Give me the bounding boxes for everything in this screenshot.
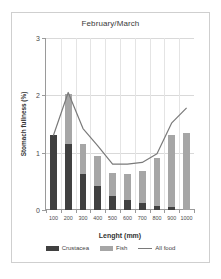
x-tick-mark <box>90 210 91 213</box>
x-tick-label: 800 <box>153 215 162 221</box>
x-tick-mark <box>105 210 106 213</box>
legend-item[interactable]: All food <box>138 245 175 251</box>
x-tick-label: 500 <box>108 215 117 221</box>
x-tick-label: 200 <box>64 215 73 221</box>
y-tick-label: 1 <box>36 149 40 156</box>
x-tick-mark <box>61 210 62 213</box>
y-axis-label: Stomach fullness (%) <box>20 92 27 157</box>
x-tick-mark <box>76 210 77 213</box>
legend-label: Fish <box>116 245 127 251</box>
x-tick-mark <box>46 210 47 213</box>
legend-swatch-fish <box>100 246 113 251</box>
x-tick-mark <box>164 210 165 213</box>
legend-item[interactable]: Crustacea <box>46 245 89 251</box>
line-series-layer <box>46 38 194 210</box>
x-tick-mark <box>120 210 121 213</box>
x-tick-mark <box>179 210 180 213</box>
y-axis-label-wrapper: Stomach fullness (%) <box>21 13 35 235</box>
x-tick-label: 400 <box>93 215 102 221</box>
y-tick-label: 3 <box>36 35 40 42</box>
x-tick-label: 600 <box>123 215 132 221</box>
legend-swatch-crustacea <box>46 246 59 251</box>
y-tick-label: 0 <box>36 207 40 214</box>
chart-title: February/March <box>12 19 209 28</box>
plot-area: 0123 1002003004005006007008009001000 <box>46 38 194 210</box>
legend-label: All food <box>155 245 175 251</box>
line-series-all-food <box>53 92 186 164</box>
x-tick-mark <box>150 210 151 213</box>
y-tick-label: 2 <box>36 92 40 99</box>
legend-label: Crustacea <box>62 245 89 251</box>
legend-swatch-all-food <box>138 248 152 249</box>
x-tick-label: 1000 <box>181 215 193 221</box>
x-tick-label: 900 <box>167 215 176 221</box>
x-tick-mark <box>194 210 195 213</box>
x-tick-mark <box>135 210 136 213</box>
x-tick-label: 700 <box>138 215 147 221</box>
chart-figure: February/March Stomach fullness (%) 0123… <box>11 12 210 263</box>
x-axis-label: Lenght (mm) <box>46 232 194 239</box>
x-tick-label: 100 <box>49 215 58 221</box>
chart-legend: CrustaceaFishAll food <box>12 245 209 251</box>
legend-item[interactable]: Fish <box>100 245 127 251</box>
x-tick-label: 300 <box>79 215 88 221</box>
